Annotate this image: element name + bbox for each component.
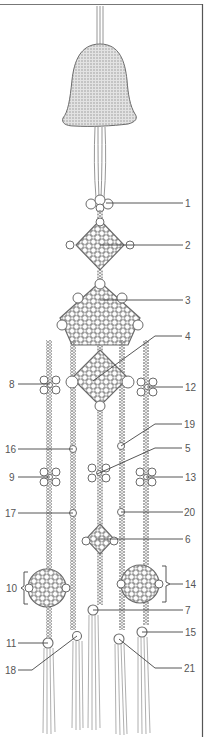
tassel-15 [138, 637, 150, 734]
label-12: 12 [185, 382, 197, 393]
label-21: 21 [184, 663, 196, 674]
label-8: 8 [9, 379, 15, 390]
label-14: 14 [185, 579, 197, 590]
label-1: 1 [185, 198, 191, 209]
label-11: 11 [6, 638, 17, 649]
tassel-11 [43, 648, 55, 734]
knot-1-cloud [86, 195, 113, 212]
knot-2-diamond [66, 218, 134, 270]
label-9: 9 [9, 472, 15, 483]
knot-3-large [57, 279, 143, 345]
bell-icon [63, 44, 137, 126]
label-10: 10 [6, 583, 18, 594]
leader-21 [119, 639, 182, 668]
label-4: 4 [185, 331, 191, 342]
label-20: 20 [184, 507, 196, 518]
label-16: 16 [5, 444, 17, 455]
knot-diagram: 1 2 3 4 5 6 7 8 9 10 11 12 13 14 15 16 1… [0, 0, 205, 737]
label-18: 18 [5, 665, 17, 676]
tassel-7 [88, 615, 100, 730]
label-2: 2 [185, 240, 191, 251]
label-13: 13 [185, 472, 197, 483]
tassel-21 [115, 644, 127, 735]
label-6: 6 [185, 534, 191, 545]
label-19: 19 [184, 419, 196, 430]
leader-19 [121, 424, 182, 446]
label-17: 17 [5, 508, 17, 519]
label-3: 3 [185, 295, 191, 306]
top-cords [97, 6, 103, 46]
label-15: 15 [185, 627, 197, 638]
label-7: 7 [185, 605, 191, 616]
diagram-canvas: 1 2 3 4 5 6 7 8 9 10 11 12 13 14 15 16 1… [0, 0, 205, 737]
knot-10-round [25, 569, 70, 607]
tassel-fringes [43, 615, 150, 735]
neck-cords [94, 127, 105, 198]
label-5: 5 [185, 443, 191, 454]
tassel-18 [72, 641, 83, 730]
